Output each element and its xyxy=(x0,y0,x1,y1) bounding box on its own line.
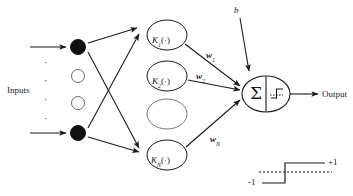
connection-top-to-k1 xyxy=(88,28,137,43)
kernel-node-1-arg: (·) xyxy=(161,35,170,45)
kernel-neural-network-diagram: · · · · Inputs K1(·) K2(·) KN(·) w1 w2 w… xyxy=(0,0,353,196)
kernel-node-2-label: K2(·) xyxy=(152,70,170,89)
input-node-top xyxy=(71,40,86,55)
weight-label-2: w2 xyxy=(196,65,205,84)
input-dot-1: · xyxy=(44,57,47,68)
kernel-node-placeholder-shape xyxy=(147,99,187,129)
weight-label-N: wN xyxy=(210,128,220,147)
input-node-mid-1 xyxy=(72,70,85,83)
legend-low-label: -1 xyxy=(248,177,256,187)
input-node-bottom xyxy=(71,126,86,141)
kernel-node-1-label: K1(·) xyxy=(152,29,170,48)
legend-step-curve xyxy=(259,163,332,183)
weight-N-subscript: N xyxy=(216,141,220,147)
summation-symbol: Σ xyxy=(250,85,262,102)
kernel-node-N-arg: (·) xyxy=(161,155,170,165)
connection-bottom-to-kN xyxy=(88,137,139,152)
weight-2-subscript: 2 xyxy=(202,78,205,84)
bias-label: b xyxy=(234,5,239,15)
input-dot-2: · xyxy=(44,75,47,86)
legend-high-label: +1 xyxy=(328,157,338,167)
kernel-node-2-arg: (·) xyxy=(161,76,170,86)
weight-1-subscript: 1 xyxy=(212,57,215,63)
output-label: Output xyxy=(322,89,347,99)
input-node-mid-2 xyxy=(72,97,85,110)
inputs-label: Inputs xyxy=(7,85,30,95)
bias-arrow xyxy=(240,18,249,71)
connection-top-to-kN xyxy=(88,52,139,148)
weight-label-1: w1 xyxy=(206,44,215,63)
input-dot-4: · xyxy=(44,113,47,124)
kernel-node-N-label: KN(·) xyxy=(151,149,170,168)
input-dot-3: · xyxy=(44,94,47,105)
connection-bottom-to-k1 xyxy=(88,34,139,128)
diagram-canvas xyxy=(0,0,353,196)
